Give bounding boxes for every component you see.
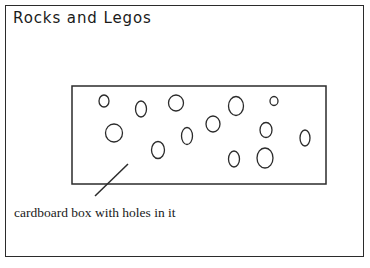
figure-caption: cardboard box with holes in it [14,206,176,220]
hole-ellipse [270,97,278,106]
hole-ellipse [260,123,272,138]
caption-leader-line [95,164,128,196]
holes-group [99,95,310,168]
hole-ellipse [136,101,147,117]
hole-ellipse [300,130,310,146]
hole-ellipse [257,148,273,168]
figure-canvas: Rocks and Legos cardboard box with holes… [0,0,370,268]
diagram-graphics [0,0,370,268]
hole-ellipse [229,97,244,116]
cardboard-box-rect [72,86,326,184]
hole-ellipse [169,95,184,111]
hole-ellipse [99,95,109,107]
hole-ellipse [229,151,240,167]
hole-ellipse [206,116,220,132]
hole-ellipse [152,142,165,159]
hole-ellipse [182,128,193,145]
hole-ellipse [106,124,123,142]
